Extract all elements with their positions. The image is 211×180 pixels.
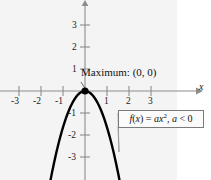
y-tick-label-1: 1 — [72, 65, 77, 75]
y-tick-label-2: 2 — [72, 43, 77, 53]
x-axis — [0, 88, 203, 95]
x-tick-label-1: 1 — [104, 97, 109, 107]
maximum-annotation: Maximum: (0, 0) — [81, 67, 156, 78]
x-tick-label-3: 3 — [148, 97, 153, 107]
y-tick-label--2: -2 — [68, 131, 76, 141]
formula-callout-box: f(x) = ax2, a < 0 — [118, 110, 204, 128]
x-tick-label--3: -3 — [11, 97, 19, 107]
x-tick-label-2: 2 — [126, 97, 131, 107]
vertex-point — [81, 87, 88, 94]
parabola-figure: -3 -2 -1 1 2 3 3 2 1 -1 -2 -3 x Maximum:… — [0, 0, 211, 180]
y-tick-label-3: 3 — [72, 21, 77, 31]
y-tick-label--1: -1 — [68, 109, 76, 119]
x-tick-label--2: -2 — [33, 97, 41, 107]
formula-text: f(x) = ax2, a < 0 — [129, 113, 192, 124]
x-tick-label--1: -1 — [55, 97, 63, 107]
formula-inequality: < 0 — [177, 114, 193, 125]
plot-canvas — [0, 0, 211, 180]
formula-equals: = — [143, 114, 154, 125]
x-axis-label: x — [199, 82, 203, 92]
y-tick-label--3: -3 — [68, 153, 76, 163]
